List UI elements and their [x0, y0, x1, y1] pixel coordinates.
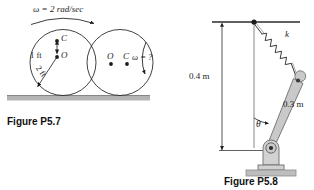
- bar-dimension-label: 0.3 m: [283, 100, 304, 109]
- left-disk-point-o-label: O: [61, 51, 68, 60]
- omega-known-label: ω = 2 rad/sec: [33, 5, 83, 14]
- pin-joint-inner: [269, 146, 273, 150]
- right-disk: [87, 30, 153, 96]
- theta-angle-label: θ: [256, 120, 261, 130]
- right-disk-point-c: [125, 62, 129, 66]
- ceiling-anchor-pin: [251, 19, 256, 24]
- ground-surface-p57: [7, 96, 150, 101]
- figure-p57-caption: Figure P5.7: [7, 117, 61, 127]
- omega-unknown-label: ω = ?: [132, 53, 152, 62]
- right-disk-point-o-label: O: [107, 52, 114, 61]
- right-disk-point-o: [109, 62, 113, 66]
- figure-p58-group: [212, 19, 306, 176]
- offset-dimension-label: 1 ft: [30, 51, 42, 60]
- spring-constant-label: k: [285, 30, 289, 39]
- figure-sheet: ω = 2 rad/sec 1 ft 2 ft C O O C ω = ? Fi…: [0, 0, 314, 190]
- figures-vector-layer: [0, 0, 314, 190]
- right-disk-point-c-label: C: [123, 52, 129, 61]
- figure-p58-caption: Figure P5.8: [224, 177, 278, 187]
- vertical-dimension-label: 0.4 m: [189, 72, 210, 81]
- left-disk-point-c-label: C: [61, 34, 67, 43]
- bar-top-attachment-eye: [296, 78, 300, 82]
- pivot-bar: [265, 71, 306, 151]
- spring-element: [254, 22, 298, 78]
- omega-known-arc-arrow: [31, 18, 94, 24]
- left-disk-point-c: [55, 39, 59, 43]
